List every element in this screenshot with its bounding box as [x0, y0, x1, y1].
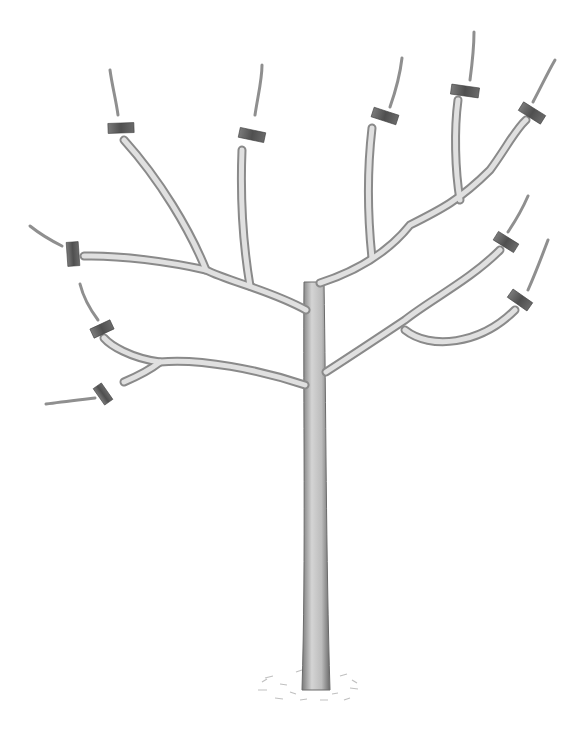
pruned-tree-illustration	[0, 0, 579, 732]
cut-marker	[371, 107, 399, 125]
cut-marker	[66, 242, 80, 267]
cut-marker	[238, 127, 266, 142]
cut-marker	[108, 123, 134, 134]
cut-marker	[450, 84, 479, 98]
trunk	[302, 282, 330, 690]
cut-marker	[93, 383, 113, 405]
